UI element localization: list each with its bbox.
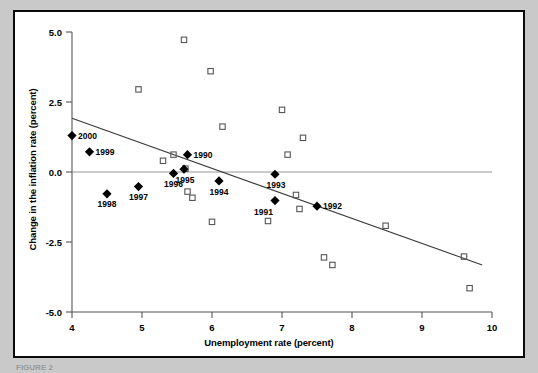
data-point-label: 1993 — [267, 180, 286, 190]
data-point-label: 1995 — [176, 175, 195, 185]
data-point-square — [300, 135, 305, 140]
data-point-square — [185, 189, 190, 194]
data-point-square — [321, 255, 326, 260]
data-point-diamond — [67, 131, 76, 140]
data-point-label: 2000 — [78, 131, 97, 141]
data-point-label: 1992 — [323, 201, 342, 211]
data-point-diamond — [102, 189, 111, 198]
x-tick-label: 5 — [139, 322, 145, 333]
data-point-label: 1999 — [96, 147, 115, 157]
x-tick-label: 6 — [209, 322, 214, 333]
data-point-diamond — [270, 196, 279, 205]
data-point-square — [209, 219, 214, 224]
data-point-square — [220, 124, 225, 129]
data-point-label: 1991 — [254, 207, 273, 217]
y-tick-label: 0.0 — [49, 167, 62, 178]
figure-caption: FIGURE 2 — [16, 363, 53, 372]
data-point-square — [383, 223, 388, 228]
data-point-label: 1998 — [98, 199, 117, 209]
y-tick-label: 5.0 — [49, 27, 62, 38]
data-point-square — [136, 87, 141, 92]
data-point-diamond — [85, 147, 94, 156]
y-axis-title: Change in the inflation rate (percent) — [27, 70, 38, 270]
x-tick-label: 7 — [279, 322, 284, 333]
data-point-diamond — [270, 170, 279, 179]
data-point-diamond — [312, 202, 321, 211]
figure-panel: 5.02.50.0-2.5-5.045678910200019991998199… — [13, 10, 525, 358]
data-point-label: 1990 — [194, 150, 213, 160]
data-point-square — [208, 69, 213, 74]
data-point-square — [181, 37, 186, 42]
data-point-diamond — [134, 182, 143, 191]
data-point-square — [293, 192, 298, 197]
y-tick-label: -2.5 — [46, 237, 63, 248]
data-point-label: 1997 — [129, 192, 148, 202]
y-tick-label: -5.0 — [46, 307, 62, 318]
data-point-square — [297, 206, 302, 211]
data-point-diamond — [214, 176, 223, 185]
data-point-square — [285, 152, 290, 157]
x-tick-label: 9 — [419, 322, 424, 333]
data-point-square — [279, 107, 284, 112]
data-point-square — [160, 158, 165, 163]
data-point-square — [330, 262, 335, 267]
x-axis-title: Unemployment rate (percent) — [15, 337, 523, 348]
data-point-square — [467, 286, 472, 291]
x-tick-label: 8 — [349, 322, 354, 333]
data-point-square — [190, 195, 195, 200]
x-tick-label: 10 — [487, 322, 498, 333]
data-point-square — [265, 218, 270, 223]
data-point-label: 1994 — [210, 187, 229, 197]
scatter-plot: 5.02.50.0-2.5-5.045678910200019991998199… — [15, 12, 523, 356]
x-tick-label: 4 — [69, 322, 75, 333]
y-tick-label: 2.5 — [49, 97, 63, 108]
